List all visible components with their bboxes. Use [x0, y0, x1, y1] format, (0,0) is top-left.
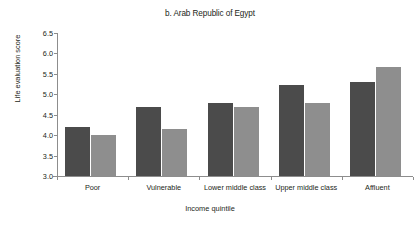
y-axis-tick-mark: [54, 135, 57, 136]
y-axis-tick-label: 6.0: [23, 49, 53, 58]
y-axis-tick-mark: [54, 94, 57, 95]
x-axis-title: Income quintile: [0, 204, 420, 213]
bar: [305, 103, 330, 176]
y-axis-tick-mark: [54, 156, 57, 157]
x-axis-tick-mark: [128, 177, 129, 180]
plot-area: 3.03.54.04.55.05.56.06.5PoorVulnerableLo…: [57, 33, 413, 176]
bar: [279, 85, 304, 176]
y-axis-tick-label: 4.5: [23, 110, 53, 119]
bar: [162, 129, 187, 176]
bar: [136, 107, 161, 176]
y-axis-tick-label: 5.5: [23, 69, 53, 78]
y-axis-tick-label: 3.5: [23, 151, 53, 160]
x-axis-tick-mark: [413, 177, 414, 180]
bar: [234, 107, 259, 176]
y-axis-tick-label: 5.0: [23, 90, 53, 99]
y-axis-tick-mark: [54, 74, 57, 75]
y-axis-tick-label: 4.0: [23, 131, 53, 140]
bar: [376, 67, 401, 176]
chart-title: b. Arab Republic of Egypt: [0, 9, 420, 18]
y-axis-tick-label: 3.0: [23, 172, 53, 181]
y-axis-tick-mark: [54, 115, 57, 116]
bar: [350, 82, 375, 176]
x-axis-category-label: Affluent: [336, 183, 419, 192]
y-axis-line: [57, 33, 58, 176]
chart-figure: b. Arab Republic of Egypt Life evaluatio…: [0, 0, 420, 232]
x-axis-line: [53, 176, 413, 177]
y-axis-title: Life evaluation score: [13, 21, 22, 117]
bar: [65, 127, 90, 176]
y-axis-tick-mark: [54, 33, 57, 34]
y-axis-tick-mark: [54, 53, 57, 54]
x-axis-tick-mark: [342, 177, 343, 180]
bar: [208, 103, 233, 176]
y-axis-tick-label: 6.5: [23, 29, 53, 38]
x-axis-tick-mark: [271, 177, 272, 180]
x-axis-tick-mark: [199, 177, 200, 180]
x-axis-tick-mark: [57, 177, 58, 180]
bar: [91, 135, 116, 176]
